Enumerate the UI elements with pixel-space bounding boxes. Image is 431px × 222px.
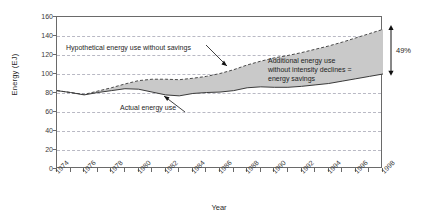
y-tick-label-100: 100 [23,70,53,77]
savings-annotation-line-2: without intensity declines = [268,65,368,74]
y-axis-ticks: 020406080100120140160 [20,16,53,168]
percent-arrow-head-top [388,25,393,30]
percent-arrow-head-bottom [388,71,393,76]
y-tick-label-20: 20 [23,146,53,153]
actual-leader-arrowhead [164,96,170,101]
plot-area [56,16,382,168]
y-tick-label-160: 160 [23,13,53,20]
y-tick-label-0: 0 [23,165,53,172]
hypothetical-annotation-label: Hypothetical energy use without savings [66,44,191,53]
y-tick-label-120: 120 [23,51,53,58]
series-layer [57,17,383,169]
y-axis-title: Energy (EJ) [10,33,19,117]
actual-annotation-label: Actual energy use [120,104,176,113]
x-axis-title: Year [56,203,382,212]
y-tick-label-80: 80 [23,89,53,96]
x-axis-tick-labels: 1974197619781980198219841986198819901992… [56,170,382,204]
energy-savings-chart: Energy (EJ) 020406080100120140160 197419… [0,0,431,222]
y-tick-label-40: 40 [23,127,53,134]
y-tick-label-140: 140 [23,32,53,39]
savings-annotation-line-3: energy savings [268,74,368,83]
savings-annotation-label: Additional energy use without intensity … [268,56,368,83]
percent-label: 49% [396,46,411,55]
savings-annotation-line-1: Additional energy use [268,56,368,65]
y-tick-label-60: 60 [23,108,53,115]
